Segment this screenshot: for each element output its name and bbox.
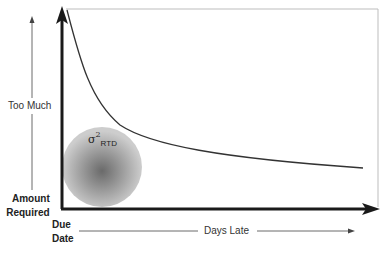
x-origin-label: Due Date	[52, 218, 74, 246]
sigma-subscript: RTD	[101, 139, 117, 148]
y-origin-label: Amount Required	[6, 192, 50, 220]
x-origin-line1: Due	[52, 218, 74, 232]
y-origin-line2: Required	[6, 206, 50, 220]
sigma-symbol: σ	[88, 133, 96, 146]
sigma-superscript: 2	[96, 130, 101, 139]
x-origin-line2: Date	[52, 232, 74, 246]
y-origin-line1: Amount	[6, 192, 50, 206]
x-axis-label: Days Late	[204, 225, 249, 236]
sigma-rtd-label: σ2RTD	[88, 131, 117, 148]
diagram-canvas	[0, 0, 387, 253]
y-axis-label: Too Much	[8, 100, 51, 111]
too-much-arrowhead-icon	[30, 16, 35, 23]
days-late-arrowhead-icon	[348, 229, 355, 234]
